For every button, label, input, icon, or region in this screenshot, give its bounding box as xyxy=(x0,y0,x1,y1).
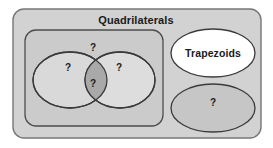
venn-diagram-canvas: Quadrilaterals ? ? ? ? Trapezoids ? xyxy=(0,0,273,148)
trapezoids-ellipse xyxy=(171,29,255,77)
venn-diagram-graphic xyxy=(0,0,273,148)
unknown-set-ellipse xyxy=(171,84,255,132)
